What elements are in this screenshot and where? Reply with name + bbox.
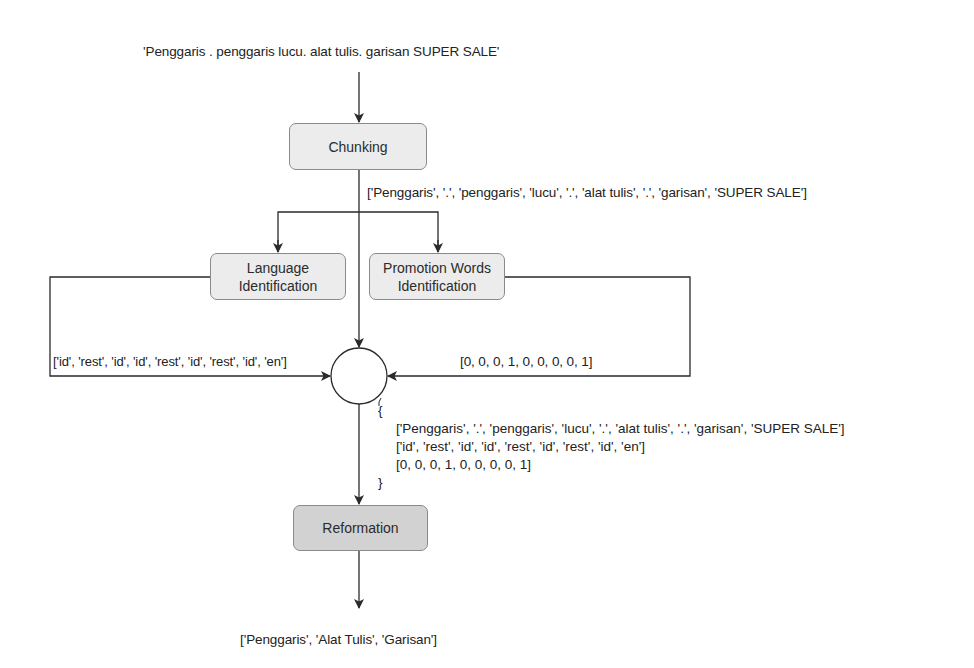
output-text: ['Penggaris', 'Alat Tulis', 'Garisan'] xyxy=(240,632,437,647)
reformation-box: Reformation xyxy=(293,505,428,551)
promotion-label-line1: Promotion Words xyxy=(383,259,491,277)
promotion-label-line2: Identification xyxy=(398,277,477,295)
merged-output-block: { ['Penggaris', '.', 'penggaris', 'lucu'… xyxy=(378,402,845,492)
chunking-output-text: ['Penggaris', '.', 'penggaris', 'lucu', … xyxy=(367,185,807,200)
merged-tokens-line: ['Penggaris', '.', 'penggaris', 'lucu', … xyxy=(378,420,845,438)
language-output-text: ['id', 'rest', 'id', 'id', 'rest', 'id',… xyxy=(53,354,287,369)
language-label-line1: Language xyxy=(247,259,309,277)
language-label-line2: Identification xyxy=(239,277,318,295)
merged-open-brace: { xyxy=(378,402,845,420)
merged-close-brace: } xyxy=(378,474,845,492)
connector-lines xyxy=(0,0,974,668)
language-identification-box: Language Identification xyxy=(210,253,346,300)
chunking-label: Chunking xyxy=(328,138,387,156)
promotion-output-text: [0, 0, 0, 1, 0, 0, 0, 0, 1] xyxy=(460,354,592,369)
reformation-label: Reformation xyxy=(322,519,398,537)
input-text: 'Penggaris . penggaris lucu. alat tulis.… xyxy=(143,44,499,59)
promotion-words-identification-box: Promotion Words Identification xyxy=(369,253,505,300)
merged-language-line: ['id', 'rest', 'id', 'id', 'rest', 'id',… xyxy=(378,438,845,456)
branch-line xyxy=(278,212,438,252)
chunking-box: Chunking xyxy=(289,123,427,170)
merged-promotion-line: [0, 0, 0, 1, 0, 0, 0, 0, 1] xyxy=(378,456,845,474)
merge-node xyxy=(331,348,387,404)
